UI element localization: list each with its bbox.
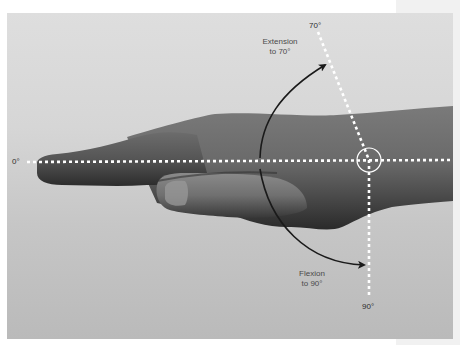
wrist-rom-figure: 0° 70° 90° Extension to 70° Flexion to 9… xyxy=(7,13,453,339)
flexion-annotation: Flexion to 90° xyxy=(287,269,337,289)
flexion-annotation-line1: Flexion xyxy=(287,269,337,279)
label-90-degrees: 90° xyxy=(362,302,374,312)
thumbnail-shape xyxy=(165,181,188,206)
extension-annotation-line1: Extension xyxy=(250,37,310,47)
extension-annotation: Extension to 70° xyxy=(250,37,310,57)
hand-illustration xyxy=(7,13,453,339)
label-0-degrees: 0° xyxy=(12,157,20,167)
flexion-annotation-line2: to 90° xyxy=(287,279,337,289)
extension-annotation-line2: to 70° xyxy=(250,47,310,57)
label-70-degrees: 70° xyxy=(309,21,321,31)
